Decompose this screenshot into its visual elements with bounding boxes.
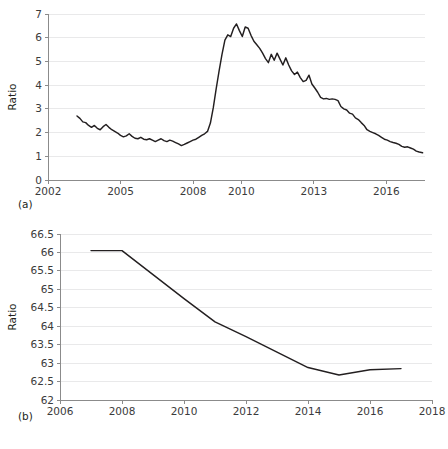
y-tick-label: 3 [35, 102, 42, 114]
y-tick-label: 65.5 [31, 264, 54, 276]
y-tick-label: 66.5 [31, 228, 54, 240]
y-tick-label: 66 [41, 246, 55, 258]
x-tick-label: 2018 [419, 405, 446, 417]
y-tick-label: 62 [41, 394, 54, 406]
y-tick-label: 0 [35, 174, 42, 186]
x-tick-label: 2010 [228, 185, 255, 197]
y-tick-label: 6 [35, 31, 42, 43]
x-tick-label: 2008 [109, 405, 136, 417]
y-tick-label: 5 [35, 55, 42, 67]
panel-a-caption: (a) [18, 198, 33, 210]
data-series-line [77, 24, 423, 153]
y-tick-label: 63.5 [31, 338, 54, 350]
x-tick-label: 2002 [35, 185, 62, 197]
x-tick-label: 2016 [357, 405, 384, 417]
figure-container: 01234567200220052008201020132016Ratio (a… [0, 0, 448, 449]
data-series-line [91, 251, 401, 375]
panel-b-caption: (b) [18, 410, 33, 422]
chart-b-svg: 6262.56363.56464.56565.56666.52006200820… [0, 220, 448, 449]
y-tick-label: 64 [41, 320, 55, 332]
x-tick-label: 2013 [300, 185, 327, 197]
chart-panel-a: 01234567200220052008201020132016Ratio (a… [0, 0, 448, 220]
x-tick-label: 2008 [180, 185, 207, 197]
x-tick-label: 2010 [171, 405, 198, 417]
y-tick-label: 62.5 [31, 375, 54, 387]
y-axis-title: Ratio [6, 304, 18, 331]
y-tick-label: 4 [35, 79, 42, 91]
y-tick-label: 7 [35, 8, 42, 20]
x-tick-label: 2005 [107, 185, 134, 197]
y-tick-label: 1 [35, 150, 42, 162]
y-tick-label: 64.5 [31, 301, 54, 313]
x-tick-label: 2012 [233, 405, 260, 417]
y-tick-label: 63 [41, 357, 54, 369]
y-tick-label: 2 [35, 126, 42, 138]
y-axis-title: Ratio [6, 84, 18, 111]
x-tick-label: 2016 [373, 185, 400, 197]
y-tick-label: 65 [41, 283, 54, 295]
x-tick-label: 2006 [47, 405, 74, 417]
x-tick-label: 2014 [295, 405, 322, 417]
chart-panel-b: 6262.56363.56464.56565.56666.52006200820… [0, 220, 448, 449]
chart-a-svg: 01234567200220052008201020132016Ratio [0, 0, 448, 220]
